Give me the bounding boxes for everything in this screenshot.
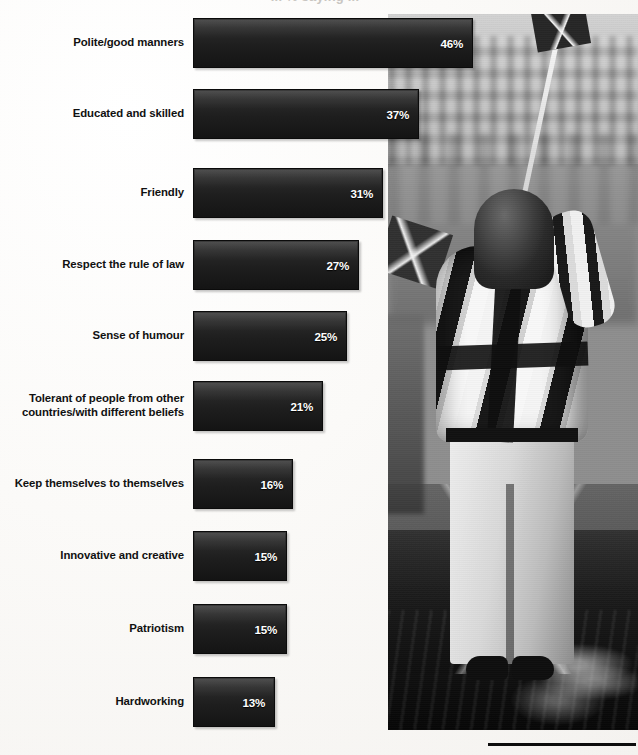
bar-container: 37% — [193, 89, 419, 139]
bar[interactable]: 16% — [193, 459, 293, 509]
bar-category-label: Respect the rule of law — [0, 258, 193, 272]
bar-category-label: Hardworking — [0, 695, 193, 709]
chart-row[interactable]: Respect the rule of law27% — [0, 240, 480, 290]
bar-category-label-line1: Tolerant of people from other — [0, 392, 184, 406]
bar-container: 25% — [193, 311, 347, 361]
bottom-rule — [488, 743, 636, 746]
bar-highlight — [195, 313, 345, 331]
bar-container: 15% — [193, 531, 287, 581]
bar-category-label: Sense of humour — [0, 329, 193, 343]
bar-value-label: 25% — [314, 330, 346, 343]
chart-row[interactable]: Polite/good manners46% — [0, 18, 480, 68]
bar-highlight — [195, 20, 471, 38]
chart-row[interactable]: Patriotism15% — [0, 604, 480, 654]
bar-value-label: 21% — [290, 400, 322, 413]
bar-category-label: Keep themselves to themselves — [0, 477, 193, 491]
bar-highlight — [195, 461, 291, 479]
bar-container: 13% — [193, 677, 275, 727]
bar-category-label: Friendly — [0, 186, 193, 200]
figure-page: ... % saying ... Polite/good manners46%E… — [0, 0, 638, 755]
bar-highlight — [195, 679, 273, 697]
chart-row[interactable]: Sense of humour25% — [0, 311, 480, 361]
chart-row[interactable]: Keep themselves to themselves16% — [0, 459, 480, 509]
chart-row[interactable]: Hardworking13% — [0, 677, 480, 727]
bar-highlight — [195, 533, 285, 551]
bar[interactable]: 27% — [193, 240, 359, 290]
bar-container: 16% — [193, 459, 293, 509]
bar[interactable]: 21% — [193, 381, 323, 431]
bar-value-label: 37% — [386, 108, 418, 121]
bar-highlight — [195, 242, 357, 260]
bar-value-label: 27% — [326, 259, 358, 272]
bar-container: 31% — [193, 168, 383, 218]
bar-container: 21% — [193, 381, 323, 431]
bar-value-label: 13% — [242, 696, 274, 709]
chart-row[interactable]: Educated and skilled37% — [0, 89, 480, 139]
bar-value-label: 46% — [440, 37, 472, 50]
chart-row[interactable]: Friendly31% — [0, 168, 480, 218]
bar-value-label: 15% — [254, 550, 286, 563]
bar-highlight — [195, 606, 285, 624]
bar-highlight — [195, 91, 417, 109]
bar-category-label: Innovative and creative — [0, 549, 193, 563]
bar-category-label-line2: countries/with different beliefs — [0, 406, 184, 420]
bar-category-label: Polite/good manners — [0, 36, 193, 50]
bar-value-label: 15% — [254, 623, 286, 636]
bar-category-label: Patriotism — [0, 622, 193, 636]
chart-row[interactable]: Tolerant of people from othercountries/w… — [0, 381, 480, 431]
bar-highlight — [195, 170, 381, 188]
bar[interactable]: 13% — [193, 677, 275, 727]
bar[interactable]: 15% — [193, 604, 287, 654]
bar[interactable]: 46% — [193, 18, 473, 68]
bar-container: 46% — [193, 18, 473, 68]
bar-value-label: 16% — [260, 478, 292, 491]
bar[interactable]: 25% — [193, 311, 347, 361]
bar-value-label: 31% — [350, 187, 382, 200]
bar-category-label: Educated and skilled — [0, 107, 193, 121]
bar[interactable]: 37% — [193, 89, 419, 139]
bar[interactable]: 31% — [193, 168, 383, 218]
bar-container: 15% — [193, 604, 287, 654]
bar-highlight — [195, 383, 321, 401]
chart-row[interactable]: Innovative and creative15% — [0, 531, 480, 581]
bar[interactable]: 15% — [193, 531, 287, 581]
bar-category-label: Tolerant of people from othercountries/w… — [0, 392, 193, 419]
horizontal-bar-chart: Polite/good manners46%Educated and skill… — [0, 0, 638, 755]
bar-container: 27% — [193, 240, 359, 290]
